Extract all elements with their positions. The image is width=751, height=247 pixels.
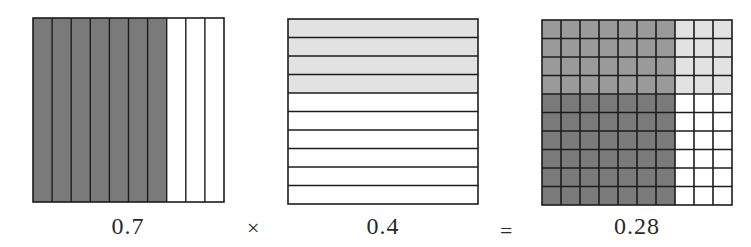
factor-a-label: 0.7 <box>98 214 158 238</box>
cell <box>656 168 675 187</box>
cell <box>656 131 675 150</box>
overlap-cell <box>599 76 618 95</box>
cell <box>694 168 713 187</box>
strip <box>288 56 478 75</box>
cell <box>580 94 599 113</box>
cell <box>561 168 580 187</box>
cell <box>637 94 656 113</box>
cell <box>561 150 580 169</box>
equals-operator: = <box>500 220 512 242</box>
product-label: 0.28 <box>597 214 677 238</box>
cell <box>713 57 732 76</box>
cell <box>542 113 561 132</box>
cell <box>580 113 599 132</box>
cell <box>599 187 618 206</box>
cell <box>713 76 732 95</box>
factor-b-label: 0.4 <box>353 214 413 238</box>
cell <box>713 131 732 150</box>
cell <box>694 187 713 206</box>
cell <box>713 187 732 206</box>
overlap-cell <box>656 57 675 76</box>
overlap-cell <box>542 39 561 58</box>
overlap-cell <box>561 57 580 76</box>
overlap-cell <box>599 39 618 58</box>
cell <box>599 168 618 187</box>
cell <box>599 94 618 113</box>
cell <box>694 131 713 150</box>
overlap-cell <box>618 57 637 76</box>
hundred-grid-diagram <box>541 19 733 206</box>
overlap-cell <box>542 20 561 39</box>
overlap-cell <box>637 39 656 58</box>
overlap-cell <box>618 76 637 95</box>
cell <box>713 39 732 58</box>
cell <box>675 76 694 95</box>
horizontal-strips-diagram <box>287 18 479 205</box>
strip <box>109 18 128 202</box>
cell <box>694 57 713 76</box>
cell <box>542 150 561 169</box>
cell <box>542 168 561 187</box>
cell <box>694 113 713 132</box>
overlap-cell <box>656 76 675 95</box>
vertical-strips-diagram <box>32 17 225 203</box>
cell <box>542 187 561 206</box>
strip <box>167 18 186 202</box>
strip <box>186 18 205 202</box>
cell <box>713 94 732 113</box>
cell <box>637 150 656 169</box>
cell <box>561 131 580 150</box>
factor-a-grid <box>32 17 225 203</box>
overlap-cell <box>618 20 637 39</box>
overlap-cell <box>580 76 599 95</box>
cell <box>618 150 637 169</box>
strip <box>288 112 478 131</box>
cell <box>542 94 561 113</box>
cell <box>561 94 580 113</box>
overlap-cell <box>599 20 618 39</box>
cell <box>694 20 713 39</box>
strip <box>288 93 478 112</box>
cell <box>694 39 713 58</box>
cell <box>580 150 599 169</box>
overlap-cell <box>599 57 618 76</box>
times-operator: × <box>247 217 259 239</box>
cell <box>713 113 732 132</box>
cell <box>618 168 637 187</box>
cell <box>675 57 694 76</box>
overlap-cell <box>637 57 656 76</box>
cell <box>656 94 675 113</box>
cell <box>675 150 694 169</box>
overlap-cell <box>637 20 656 39</box>
cell <box>675 39 694 58</box>
cell <box>675 131 694 150</box>
cell <box>713 150 732 169</box>
overlap-cell <box>656 39 675 58</box>
cell <box>618 187 637 206</box>
cell <box>637 131 656 150</box>
strip <box>33 18 52 202</box>
cell <box>599 150 618 169</box>
overlap-cell <box>542 76 561 95</box>
cell <box>637 187 656 206</box>
product-grid <box>541 19 733 206</box>
strip <box>288 167 478 186</box>
overlap-cell <box>580 57 599 76</box>
cell <box>637 168 656 187</box>
cell <box>599 113 618 132</box>
strip <box>205 18 224 202</box>
cell <box>618 113 637 132</box>
cell <box>675 168 694 187</box>
strip <box>288 149 478 168</box>
overlap-cell <box>580 39 599 58</box>
overlap-cell <box>561 20 580 39</box>
cell <box>618 131 637 150</box>
cell <box>637 113 656 132</box>
overlap-cell <box>561 76 580 95</box>
strip <box>90 18 109 202</box>
strip <box>129 18 148 202</box>
cell <box>618 94 637 113</box>
cell <box>561 113 580 132</box>
overlap-cell <box>637 76 656 95</box>
cell <box>675 113 694 132</box>
